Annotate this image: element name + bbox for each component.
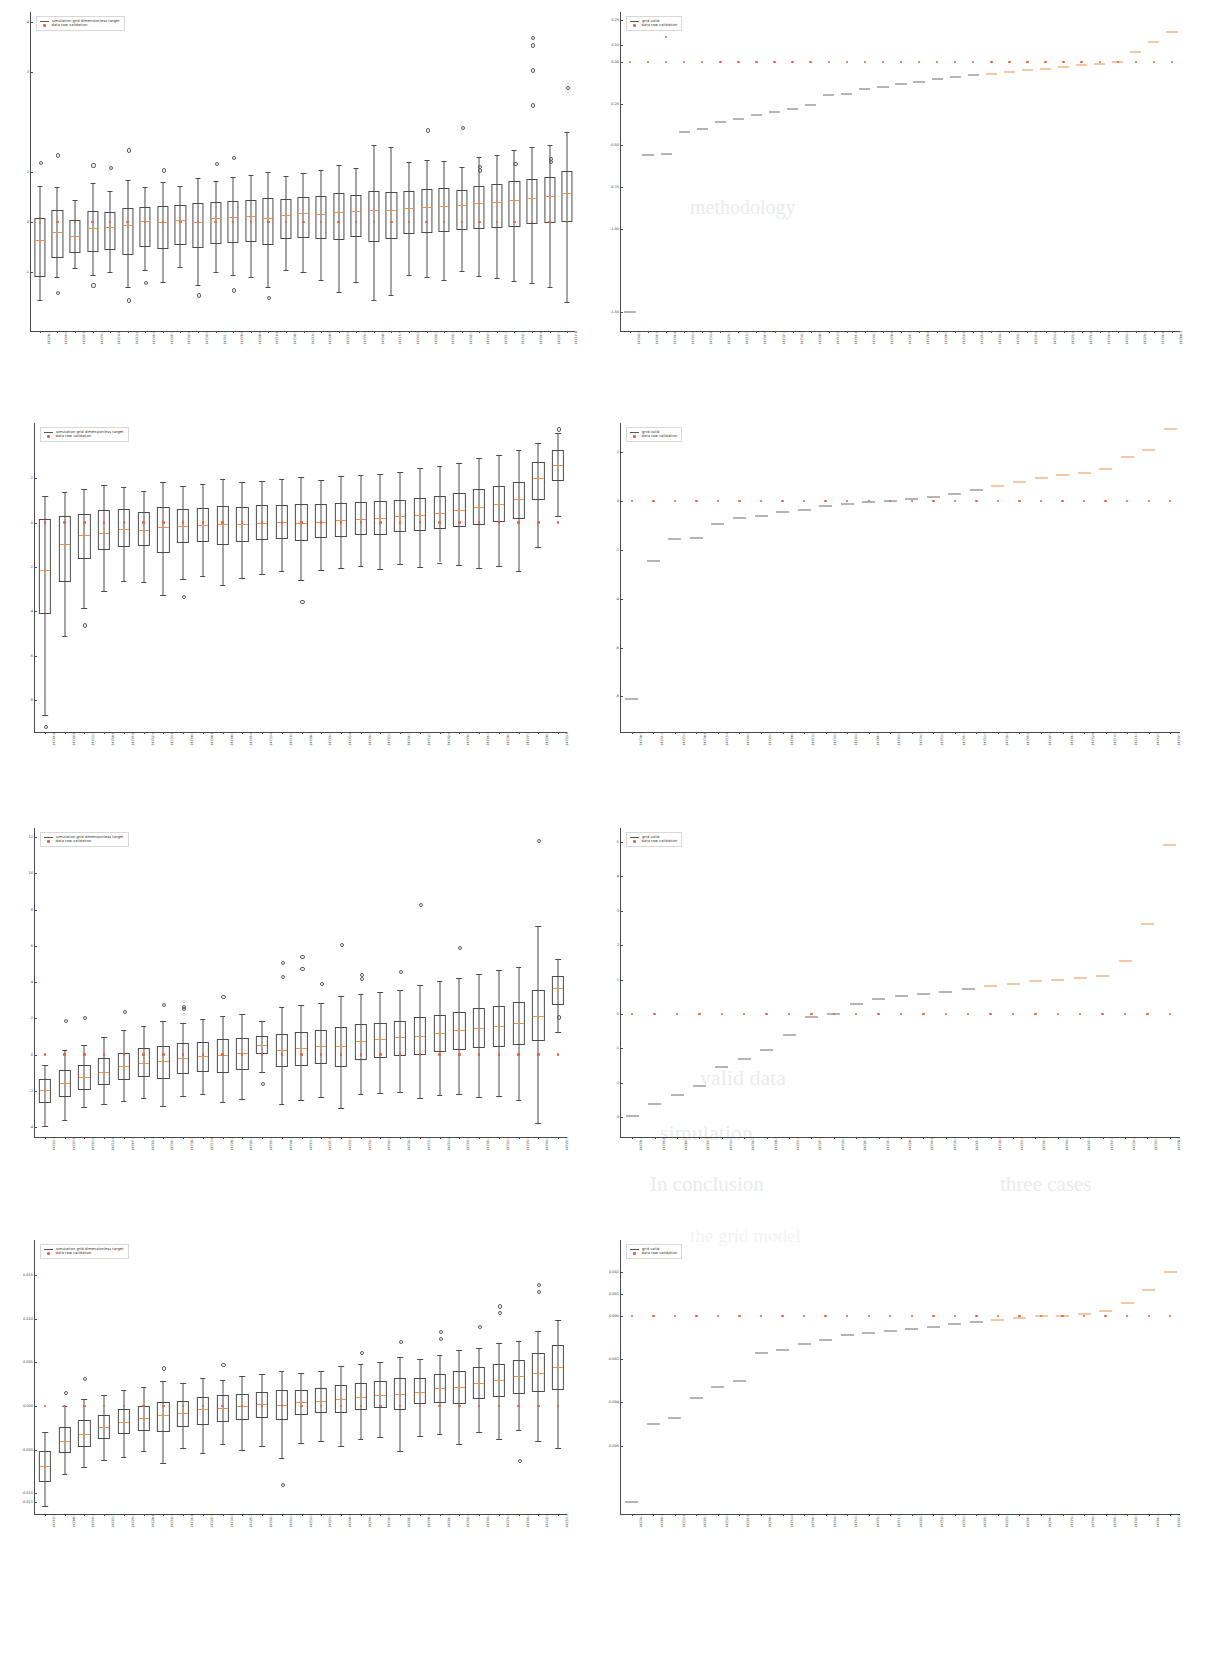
boxplot-box	[101, 12, 119, 332]
data-validation-reference-dot	[788, 1013, 790, 1015]
boxplot-cap-upper	[338, 476, 344, 477]
x-axis-tick-mark	[1147, 1137, 1148, 1139]
boxplot-median-line	[415, 1392, 425, 1393]
grid-valid-step-marker	[1058, 67, 1069, 68]
boxplot-cap-lower	[406, 275, 411, 276]
boxplot-box	[134, 423, 154, 733]
boxplot-box	[172, 12, 190, 332]
boxplot-cap-upper	[82, 1399, 88, 1400]
x-axis-tick-mark	[722, 1137, 723, 1139]
x-axis-tick-label: 24Z07-8	[746, 1514, 750, 1527]
boxplot-median-line	[494, 1380, 504, 1381]
boxplot-box	[35, 828, 55, 1138]
data-validation-reference-dot	[653, 1013, 655, 1015]
legend-line-swatch	[630, 837, 639, 838]
boxplot-cap-lower	[555, 1448, 561, 1449]
boxplot-median-line	[158, 1061, 168, 1062]
boxplot-cap-lower	[378, 1437, 384, 1438]
data-validation-reference-dot	[1148, 500, 1150, 502]
x-axis-tick-label: 24Z46-3	[407, 1514, 411, 1527]
x-axis-tick-label: 24Z36-8	[190, 1514, 194, 1527]
data-validation-reference-dot	[557, 521, 559, 523]
boxplot-cap-lower	[516, 1100, 522, 1101]
x-axis-tick-mark	[946, 1137, 947, 1139]
data-validation-reference-dot	[1148, 1315, 1150, 1317]
x-axis-tick-mark	[655, 1137, 656, 1139]
data-validation-reference-dot	[557, 1405, 559, 1407]
boxplot-box	[410, 828, 430, 1138]
x-axis-tick-mark	[739, 732, 740, 734]
data-validation-reference-dot	[300, 1053, 302, 1055]
boxplot-box	[189, 12, 207, 332]
boxplot-cap-upper	[437, 466, 443, 467]
x-axis-tick-label: 24Z53-3	[854, 1514, 858, 1527]
x-axis-tick-mark	[783, 1514, 784, 1516]
boxplot-box	[371, 828, 391, 1138]
x-axis-tick-label: 24Z74-3	[506, 1514, 510, 1527]
boxplot-median-line	[178, 1413, 188, 1414]
x-axis-tick-label: 24Z67-3	[131, 1137, 135, 1150]
boxplot-cap-upper	[62, 492, 68, 493]
x-axis-tick-label: 24Z34-3	[841, 1137, 845, 1150]
y-axis-tick-label: 0	[617, 499, 621, 503]
x-axis-tick-label: 24Z04-3	[832, 1514, 836, 1527]
data-validation-reference-dot	[1079, 1013, 1081, 1015]
boxplot-outlier-point	[439, 1330, 443, 1334]
boxplot-outlier-point	[531, 43, 535, 47]
x-axis-tick-label: 24Z53-3	[1020, 1137, 1024, 1150]
boxplot-outlier-point	[123, 1010, 127, 1014]
boxplot-median-line	[553, 465, 563, 466]
boxplot-iqr-box	[562, 171, 573, 222]
y-axis-tick-label: 0.002	[609, 1270, 621, 1274]
boxplot-cap-upper	[259, 481, 265, 482]
data-validation-reference-dot	[773, 61, 775, 63]
data-validation-reference-dot	[517, 521, 519, 523]
boxplot-median-line	[563, 193, 572, 194]
boxplot-outlier-point	[221, 995, 225, 999]
boxplot-median-line	[123, 225, 132, 226]
boxplot-cap-upper	[457, 978, 463, 979]
boxplot-median-line	[119, 1422, 129, 1423]
grid-valid-step-marker	[625, 698, 638, 699]
x-axis-tick-mark	[718, 1514, 719, 1516]
boxplot-iqr-box	[58, 516, 70, 582]
data-validation-reference-dot	[674, 1315, 676, 1317]
boxplot-iqr-box	[421, 189, 432, 233]
x-axis-tick-label: 24Z16-3	[1134, 732, 1138, 745]
grid-valid-step-marker	[715, 1067, 728, 1068]
data-validation-reference-dot	[261, 1053, 263, 1055]
data-validation-reference-dot	[701, 61, 703, 63]
data-validation-reference-dot	[631, 1013, 633, 1015]
y-axis-tick-label: 1	[617, 978, 621, 982]
data-validation-reference-dot	[221, 1053, 223, 1055]
boxplot-box	[154, 12, 172, 332]
data-validation-reference-dot	[989, 1013, 991, 1015]
legend-dot-label: data raw validation	[56, 434, 92, 438]
data-validation-reference-dot	[537, 1405, 539, 1407]
boxplot-median-line	[316, 1046, 326, 1047]
boxplot-iqr-box	[216, 1395, 228, 1421]
y-axis-tick-label: 4	[617, 874, 621, 878]
data-validation-reference-dot	[281, 1053, 283, 1055]
boxplot-box	[213, 1240, 233, 1515]
grid-valid-step-marker	[1007, 983, 1020, 984]
boxplot-outlier-point	[109, 166, 113, 170]
boxplot-box	[193, 423, 213, 733]
boxplot-cap-upper	[178, 186, 183, 187]
boxplot-median-line	[246, 216, 255, 217]
boxplot-iqr-box	[87, 211, 98, 252]
boxplot-cap-lower	[536, 547, 542, 548]
data-validation-reference-dot	[791, 61, 793, 63]
boxplot-cap-upper	[437, 981, 443, 982]
data-validation-reference-dot	[997, 500, 999, 502]
x-axis-tick-mark	[998, 732, 999, 734]
boxplot-box	[136, 12, 154, 332]
boxplot-outlier-point	[162, 1366, 166, 1370]
grid-valid-step-marker	[787, 108, 798, 109]
boxplot-box	[331, 828, 351, 1138]
boxplot-median-line	[415, 1036, 425, 1037]
grid-valid-step-marker	[697, 128, 708, 129]
x-axis-tick-label: 24Z07-3	[1177, 1514, 1181, 1527]
boxplot-median-line	[533, 478, 543, 479]
x-axis-tick-label: 24Z96-3	[1155, 1514, 1159, 1527]
